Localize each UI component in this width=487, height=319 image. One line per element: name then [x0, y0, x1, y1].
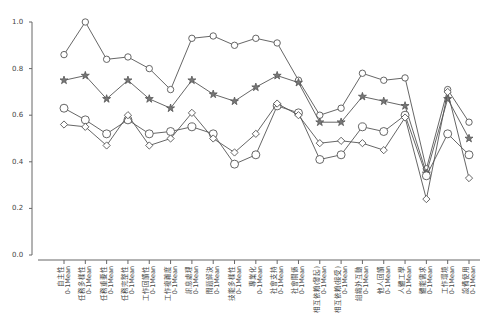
- star-marker: [209, 90, 217, 98]
- svg-text:0-1Mean: 0-1Mean: [149, 266, 157, 294]
- x-tick-label: 社會關係0-1Mean: [290, 266, 306, 294]
- star-marker: [145, 95, 153, 103]
- star-marker: [401, 102, 409, 110]
- circle-marker: [188, 123, 196, 131]
- circle-marker: [358, 123, 366, 131]
- x-tick-label: 訊息處理0-1Mean: [184, 266, 200, 294]
- svg-text:0-1Mean: 0-1Mean: [235, 266, 243, 294]
- x-tick-label: 自主性0-1Mean: [56, 266, 72, 294]
- y-tick-label: 0.4: [12, 158, 24, 166]
- diamond-marker: [146, 142, 153, 149]
- circle-marker: [210, 33, 216, 39]
- circle-marker: [146, 65, 152, 71]
- x-tick-label: 相互依賴(接受)0-1Mean: [333, 266, 349, 313]
- svg-text:0-1Mean: 0-1Mean: [64, 266, 72, 294]
- diamond-marker: [465, 175, 472, 182]
- diamond-marker: [60, 121, 67, 128]
- svg-text:0-1Mean: 0-1Mean: [298, 266, 306, 294]
- svg-text:0-1Mean: 0-1Mean: [448, 266, 456, 294]
- svg-text:0-1Mean: 0-1Mean: [128, 266, 136, 294]
- circle-marker: [103, 56, 109, 62]
- y-tick-label: 0.2: [12, 204, 23, 212]
- data-series: [61, 19, 472, 172]
- x-tick-label: 任務重要性0-1Mean: [99, 266, 115, 301]
- svg-text:0-1Mean: 0-1Mean: [213, 266, 221, 294]
- x-tick-label: 組織外互動0-1Mean: [354, 266, 370, 301]
- circle-marker: [231, 160, 239, 168]
- x-tick-label: 體能需求0-1Mean: [418, 266, 434, 294]
- y-tick-label: 0.6: [12, 111, 24, 119]
- star-marker: [465, 134, 473, 142]
- svg-text:0-1Mean: 0-1Mean: [426, 266, 434, 294]
- circle-marker: [274, 40, 280, 46]
- svg-text:0-1Mean: 0-1Mean: [320, 266, 328, 294]
- svg-text:0-1Mean: 0-1Mean: [362, 266, 370, 294]
- svg-text:0-1Mean: 0-1Mean: [107, 266, 115, 294]
- circle-marker: [145, 130, 153, 138]
- circle-marker: [253, 35, 259, 41]
- x-axis: 自主性0-1Mean任務多樣性0-1Mean任務重要性0-1Mean任務完整性0…: [38, 260, 480, 313]
- circle-marker: [402, 75, 408, 81]
- svg-text:0-1Mean: 0-1Mean: [405, 266, 413, 294]
- circle-marker: [380, 128, 388, 136]
- circle-marker: [167, 86, 173, 92]
- x-tick-label: 人體工學0-1Mean: [397, 266, 413, 294]
- x-tick-label: 工作複雜度0-1Mean: [163, 266, 179, 301]
- star-marker: [316, 118, 324, 126]
- circle-marker: [381, 77, 387, 83]
- x-tick-label: 技能多樣性0-1Mean: [227, 266, 243, 301]
- circle-marker: [61, 51, 67, 57]
- circle-marker: [422, 172, 430, 180]
- circle-marker: [103, 130, 111, 138]
- line-chart: 0.00.20.40.60.81.0 自主性0-1Mean任務多樣性0-1Mea…: [0, 0, 487, 319]
- x-tick-label: 問題解決0-1Mean: [205, 266, 221, 294]
- diamond-marker: [423, 195, 430, 202]
- x-tick-label: 專業化0-1Mean: [248, 266, 264, 294]
- star-marker: [358, 92, 366, 100]
- y-tick-label: 0.8: [12, 65, 23, 73]
- svg-text:0-1Mean: 0-1Mean: [469, 266, 477, 294]
- circle-marker: [316, 155, 324, 163]
- x-tick-label: 他人回饋0-1Mean: [376, 266, 392, 294]
- svg-text:0-1Mean: 0-1Mean: [85, 266, 93, 294]
- diamond-marker: [380, 147, 387, 154]
- circle-marker: [189, 35, 195, 41]
- diamond-marker: [316, 140, 323, 147]
- series-group: [60, 19, 473, 203]
- x-tick-label: 社會支持0-1Mean: [269, 266, 285, 294]
- svg-text:0-1Mean: 0-1Mean: [277, 266, 285, 294]
- data-series: [60, 88, 472, 202]
- star-marker: [231, 97, 239, 105]
- y-axis: 0.00.20.40.60.81.0: [12, 18, 32, 259]
- circle-marker: [444, 130, 452, 138]
- star-marker: [60, 76, 68, 84]
- x-tick-label: 任務完整性0-1Mean: [120, 266, 136, 301]
- circle-marker: [125, 54, 131, 60]
- circle-marker: [82, 19, 88, 25]
- circle-marker: [338, 105, 344, 111]
- circle-marker: [231, 42, 237, 48]
- x-tick-label: 設備使用0-1Mean: [461, 266, 477, 294]
- svg-text:0-1Mean: 0-1Mean: [192, 266, 200, 294]
- star-marker: [81, 71, 89, 79]
- circle-marker: [465, 151, 473, 159]
- y-tick-label: 1.0: [12, 18, 23, 26]
- diamond-marker: [359, 140, 366, 147]
- y-tick-label: 0.0: [12, 251, 23, 259]
- svg-text:0-1Mean: 0-1Mean: [384, 266, 392, 294]
- x-tick-label: 相互依賴(發起)0-1Mean: [312, 266, 328, 313]
- x-tick-label: 工作回饋性0-1Mean: [141, 266, 157, 301]
- x-tick-label: 任務多樣性0-1Mean: [77, 266, 93, 301]
- circle-marker: [359, 70, 365, 76]
- svg-text:0-1Mean: 0-1Mean: [341, 266, 349, 294]
- diamond-marker: [338, 137, 345, 144]
- circle-marker: [252, 151, 260, 159]
- circle-marker: [337, 151, 345, 159]
- star-marker: [273, 71, 281, 79]
- svg-text:0-1Mean: 0-1Mean: [171, 266, 179, 294]
- x-tick-label: 工作環境0-1Mean: [440, 266, 456, 294]
- circle-marker: [466, 119, 472, 125]
- svg-text:0-1Mean: 0-1Mean: [256, 266, 264, 294]
- circle-marker: [60, 104, 68, 112]
- star-marker: [380, 97, 388, 105]
